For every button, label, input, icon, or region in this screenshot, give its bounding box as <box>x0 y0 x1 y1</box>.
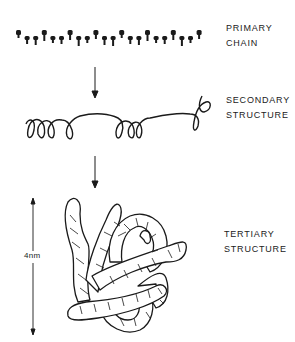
residue-sidechain <box>129 39 131 44</box>
label-tertiary-line2: STRUCTURE <box>224 243 287 255</box>
label-primary-line1: PRIMARY <box>226 22 272 34</box>
residue-sidechain <box>172 34 174 40</box>
residue-sidechain <box>35 39 37 45</box>
residue-sidechain <box>52 39 54 43</box>
scale-bar-4nm <box>22 198 44 335</box>
residue-sidechain <box>121 34 123 38</box>
residue-sidechain <box>155 39 157 43</box>
label-secondary-structure: SECONDARY STRUCTURE <box>226 94 290 121</box>
label-secondary-line1: SECONDARY <box>226 94 290 106</box>
tertiary-fold <box>65 198 186 332</box>
label-primary-line2: CHAIN <box>226 37 272 49</box>
secondary-helix <box>26 96 210 139</box>
primary-chain <box>16 30 202 46</box>
residue-sidechain <box>138 39 140 45</box>
residue-sidechain <box>26 39 28 44</box>
residue-sidechain <box>198 34 200 39</box>
label-tertiary-structure: TERTIARY STRUCTURE <box>224 228 287 255</box>
residue-sidechain <box>43 34 45 41</box>
residue-sidechain <box>104 39 106 45</box>
residue-sidechain <box>95 34 97 39</box>
protein-structure-diagram <box>0 0 295 342</box>
residue-sidechain <box>78 39 80 46</box>
label-primary-chain: PRIMARY CHAIN <box>226 22 272 49</box>
arrow-secondary-to-tertiary <box>92 156 98 188</box>
residue-sidechain <box>147 34 149 41</box>
arrow-primary-to-secondary <box>92 67 98 98</box>
residue-sidechain <box>112 39 114 46</box>
residue-sidechain <box>61 39 63 44</box>
residue-sidechain <box>69 34 71 40</box>
label-tertiary-line1: TERTIARY <box>224 228 287 240</box>
residue-sidechain <box>181 39 183 46</box>
scale-label: 4nm <box>24 250 40 262</box>
residue-sidechain <box>164 39 166 44</box>
residue-sidechain <box>18 34 20 38</box>
residue-sidechain <box>86 39 88 43</box>
residue-sidechain <box>190 39 192 43</box>
label-secondary-line2: STRUCTURE <box>226 109 290 121</box>
